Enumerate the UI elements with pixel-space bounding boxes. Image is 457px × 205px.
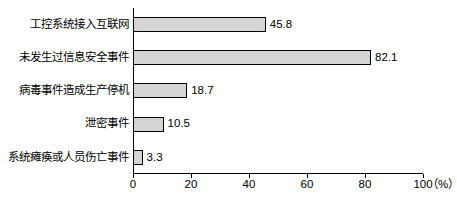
x-tick-label: 0 bbox=[130, 179, 136, 191]
bar bbox=[133, 150, 143, 165]
bar-value-label: 45.8 bbox=[270, 19, 292, 31]
bar-value-label: 10.5 bbox=[168, 118, 190, 130]
bar bbox=[133, 83, 187, 98]
bar-row: 泄密事件 10.5 bbox=[133, 108, 190, 141]
bar-row: 未发生过信息安全事件 82.1 bbox=[133, 41, 397, 74]
bar bbox=[133, 50, 371, 65]
x-tick-label: 20 bbox=[185, 179, 198, 191]
bar bbox=[133, 117, 164, 132]
x-tick-label: 80 bbox=[359, 179, 372, 191]
bar-value-label: 18.7 bbox=[191, 85, 213, 97]
bar-value-label: 82.1 bbox=[375, 52, 397, 64]
x-tick-label: 60 bbox=[301, 179, 314, 191]
category-label: 系统瘫痪或人员伤亡事件 bbox=[8, 152, 133, 164]
category-label: 泄密事件 bbox=[85, 118, 133, 130]
x-axis-unit-label: （%） bbox=[427, 179, 457, 191]
category-label: 病毒事件造成生产停机 bbox=[19, 85, 133, 97]
bar-row: 工控系统接入互联网 45.8 bbox=[133, 8, 292, 41]
bar-row: 系统瘫痪或人员伤亡事件 3.3 bbox=[133, 141, 163, 174]
bar-value-label: 3.3 bbox=[147, 152, 163, 164]
bar bbox=[133, 17, 266, 32]
category-label: 工控系统接入互联网 bbox=[30, 19, 133, 31]
bar-row: 病毒事件造成生产停机 18.7 bbox=[133, 74, 214, 107]
category-label: 未发生过信息安全事件 bbox=[19, 52, 133, 64]
x-tick-label: 40 bbox=[243, 179, 256, 191]
bar-chart: 工控系统接入互联网 45.8 未发生过信息安全事件 82.1 病毒事件造成生产停… bbox=[0, 0, 457, 205]
